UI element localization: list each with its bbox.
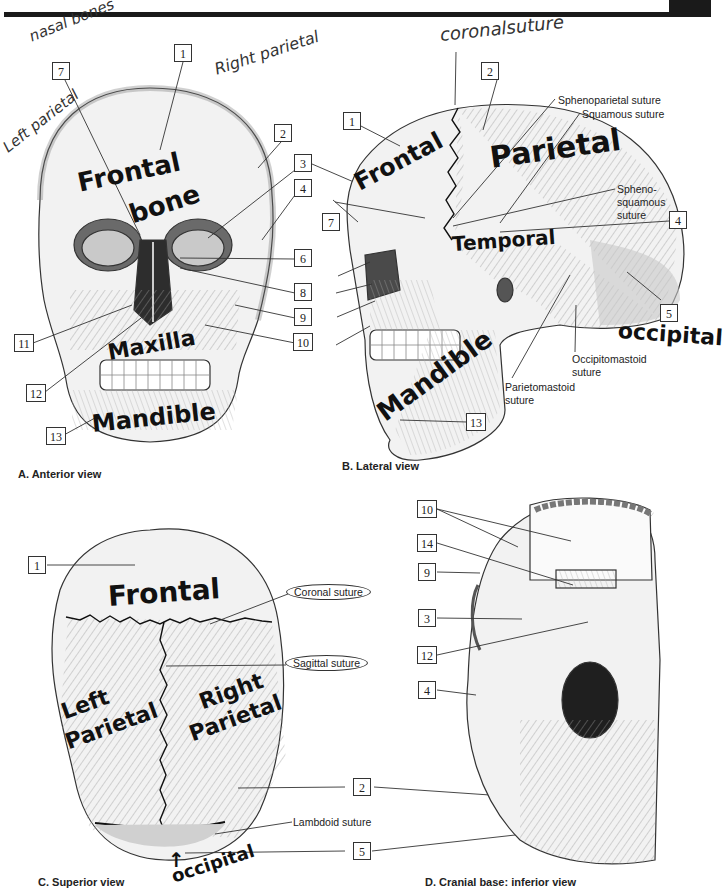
- arrow-up-icon: ↑: [168, 848, 185, 872]
- label-occipitomastoid-2: suture: [572, 366, 601, 378]
- label-number-2: 2: [353, 778, 371, 796]
- label-number-6: 6: [294, 249, 312, 267]
- label-number-8: 8: [294, 283, 312, 301]
- label-number-4: 4: [418, 681, 436, 699]
- label-number-4: 4: [669, 211, 687, 229]
- caption-lateral-view: B. Lateral view: [342, 460, 419, 472]
- label-sphenosquamous-3: suture: [617, 209, 646, 221]
- label-squamous-suture: Squamous suture: [582, 108, 664, 120]
- label-parietomastoid-1: Parietomastoid: [505, 381, 575, 393]
- caption-superior-view: C. Superior view: [38, 876, 124, 888]
- label-number-5: 5: [660, 304, 678, 322]
- label-number-11: 11: [14, 334, 34, 352]
- caption-inferior-view: D. Cranial base: inferior view: [425, 876, 576, 888]
- label-number-7: 7: [52, 62, 70, 80]
- label-number-1: 1: [343, 112, 361, 130]
- label-number-3: 3: [294, 154, 312, 172]
- label-sphenoparietal-suture: Sphenoparietal suture: [558, 94, 661, 106]
- label-number-3: 3: [418, 609, 436, 627]
- caption-anterior-view: A. Anterior view: [18, 468, 101, 480]
- label-coronal-suture: Coronal suture: [286, 584, 371, 600]
- label-number-1: 1: [28, 556, 46, 574]
- label-number-14: 14: [417, 534, 437, 552]
- label-number-4: 4: [294, 179, 312, 197]
- label-number-9: 9: [294, 308, 312, 326]
- label-number-9: 9: [418, 563, 436, 581]
- inferior-skull: [467, 498, 660, 864]
- label-number-13: 13: [46, 427, 66, 445]
- label-number-12: 12: [26, 384, 46, 402]
- label-sphenosquamous-1: Spheno-: [617, 183, 657, 195]
- label-number-13: 13: [466, 413, 486, 431]
- label-occipitomastoid-1: Occipitomastoid: [572, 353, 647, 365]
- label-number-7: 7: [322, 213, 340, 231]
- label-sphenosquamous-2: squamous: [617, 196, 665, 208]
- label-number-12: 12: [417, 646, 437, 664]
- label-number-10: 10: [417, 500, 437, 518]
- label-number-1: 1: [174, 44, 192, 62]
- label-lambdoid-suture: Lambdoid suture: [293, 816, 371, 828]
- anterior-skull: [39, 88, 273, 442]
- label-number-5: 5: [353, 842, 371, 860]
- label-sagittal-suture: Sagittal suture: [285, 655, 368, 671]
- label-number-2: 2: [274, 124, 292, 142]
- label-parietomastoid-2: suture: [505, 394, 534, 406]
- label-number-2: 2: [481, 62, 499, 80]
- label-number-10: 10: [293, 333, 313, 351]
